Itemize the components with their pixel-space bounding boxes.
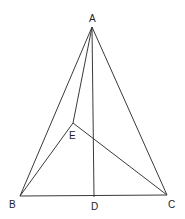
- segment-ac: [92, 27, 167, 195]
- segment-ab: [20, 27, 92, 196]
- point-label-e: E: [69, 130, 76, 141]
- segment-ec: [73, 123, 167, 195]
- point-label-a: A: [89, 13, 96, 24]
- segment-ae: [73, 27, 92, 123]
- geometry-diagram: A B C D E: [0, 0, 185, 219]
- segment-ad: [92, 27, 94, 197]
- point-label-c: C: [168, 199, 175, 210]
- point-label-b: B: [9, 199, 16, 210]
- point-label-d: D: [91, 201, 98, 212]
